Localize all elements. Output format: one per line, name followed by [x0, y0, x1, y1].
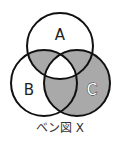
label-c: C — [87, 81, 97, 99]
label-a: A — [55, 26, 66, 44]
caption: ベン図 X — [36, 121, 84, 135]
label-b: B — [24, 81, 34, 99]
venn-diagram: A B C ベン図 X — [0, 0, 117, 142]
